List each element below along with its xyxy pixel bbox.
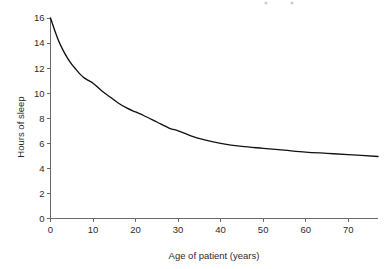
y-tick-label: 10 [34,88,45,99]
x-tick-label: 60 [300,224,311,235]
sleep-vs-age-chart: 0246810121416 010203040506070 Age of pat… [0,0,388,269]
axis-lines [51,18,379,219]
y-tick-label: 6 [39,138,44,149]
y-tick-label: 2 [39,188,44,199]
x-tick-label: 30 [173,224,184,235]
y-tick-label: 12 [34,63,45,74]
scan-artifacts [264,1,293,4]
x-tick-label: 10 [88,224,99,235]
y-tick-label: 0 [39,213,44,224]
sleep-curve [51,18,379,156]
x-tick-label: 0 [48,224,53,235]
x-axis-title: Age of patient (years) [169,250,260,261]
x-tick-label: 50 [258,224,269,235]
y-axis-title: Hours of sleep [15,96,26,157]
y-tick-label: 16 [34,12,45,23]
chart-canvas: 0246810121416 010203040506070 Age of pat… [0,0,388,269]
x-tick-label: 70 [343,224,354,235]
y-tick-label: 4 [39,163,44,174]
x-tick-label: 40 [215,224,226,235]
x-axis-ticks: 010203040506070 [48,219,354,235]
y-axis-ticks: 0246810121416 [34,12,51,224]
y-tick-label: 14 [34,37,45,48]
x-tick-label: 20 [130,224,141,235]
y-tick-label: 8 [39,113,44,124]
